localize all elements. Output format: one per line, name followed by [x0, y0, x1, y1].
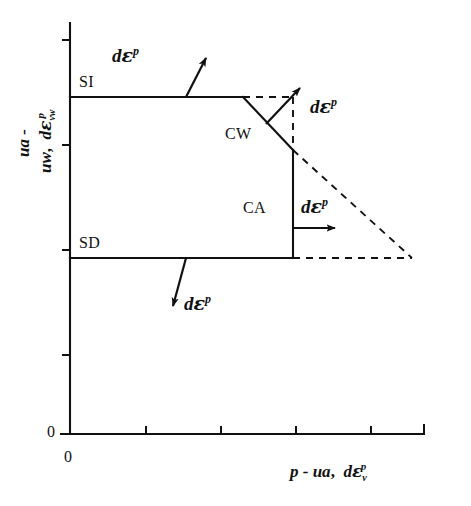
- strain-label-sd-sup: p: [205, 292, 211, 306]
- yield-surface-solid: [70, 97, 293, 258]
- y-axis-title-d: d: [36, 131, 55, 140]
- strain-label-si-d: d: [112, 45, 122, 66]
- strain-vector-cw: [266, 88, 300, 124]
- x-axis-title-separator: ,: [331, 462, 335, 481]
- x-axis-title-stress: p - ua: [290, 462, 331, 481]
- yield-surface-plot: [0, 0, 471, 506]
- region-label-si: SI: [79, 74, 94, 90]
- x-axis-title: p - ua, dεvp: [290, 461, 366, 483]
- strain-label-cw-d: d: [310, 96, 320, 117]
- strain-label-sd-d: d: [184, 293, 194, 314]
- axis-x: [60, 424, 425, 434]
- y-axis-origin-label: 0: [47, 424, 55, 440]
- y-axis-title-sup: p: [34, 113, 46, 119]
- region-label-cw: CW: [225, 126, 251, 142]
- x-axis-title-d: d: [343, 462, 352, 481]
- strain-label-ca-epsilon: ε: [311, 195, 323, 217]
- y-axis-title-wrapper: ua - uw, dεvwp: [14, 28, 40, 258]
- strain-label-si: dεp: [112, 45, 139, 65]
- y-axis-title-sub: vw: [46, 110, 57, 121]
- axis-y: [62, 22, 70, 434]
- x-axis-title-sub: v: [362, 472, 366, 483]
- x-axis-origin-label: 0: [64, 449, 72, 465]
- strain-label-ca: dεp: [301, 196, 328, 216]
- strain-label-ca-sup: p: [322, 195, 328, 209]
- region-label-sd: SD: [79, 235, 100, 251]
- strain-vector-si: [186, 58, 206, 97]
- strain-label-cw: dεp: [310, 96, 337, 116]
- strain-label-sd: dεp: [184, 293, 211, 313]
- strain-label-cw-sup: p: [331, 95, 337, 109]
- y-axis-title: ua - uw, dεvwp: [14, 97, 57, 189]
- figure-root: SI SD CW CA dεp dεp dεp dεp 0 0 p - ua, …: [0, 0, 471, 506]
- y-axis-title-epsilon: ε: [35, 121, 55, 131]
- strain-label-si-sup: p: [133, 44, 139, 58]
- region-label-ca: CA: [243, 200, 266, 216]
- strain-label-sd-epsilon: ε: [194, 292, 206, 314]
- y-axis-title-separator: ,: [36, 148, 55, 152]
- strain-label-si-epsilon: ε: [122, 44, 134, 66]
- strain-label-cw-epsilon: ε: [320, 95, 332, 117]
- strain-label-ca-d: d: [301, 196, 311, 217]
- x-axis-title-sup: p: [361, 460, 367, 472]
